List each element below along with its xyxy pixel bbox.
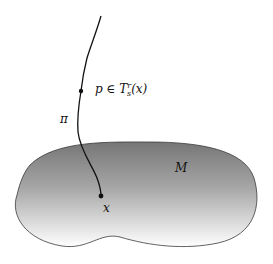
manifold-label: M	[175, 161, 187, 175]
diagram-canvas: p ∈ Trs(x) π M x	[0, 0, 273, 264]
manifold-region	[15, 142, 257, 247]
point-p-dot	[79, 89, 83, 93]
curve-label-pi: π	[60, 112, 68, 126]
diagram-svg	[0, 0, 273, 264]
point-x-label: x	[103, 201, 110, 215]
point-x-dot	[99, 194, 104, 199]
point-p-label: p ∈ Trs(x)	[95, 82, 147, 96]
